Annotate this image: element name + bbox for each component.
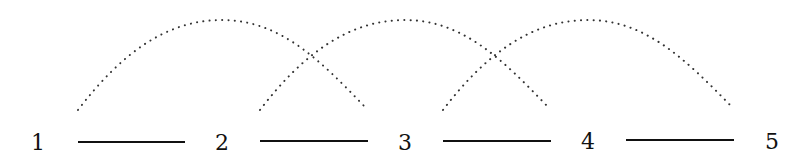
node-4-label: 4 <box>581 129 595 154</box>
line-graph-diagram: 1 2 3 4 5 <box>0 0 810 158</box>
node-2-label: 2 <box>215 130 229 155</box>
arc-edge34-edge45 <box>443 20 732 110</box>
node-3-label: 3 <box>398 130 412 155</box>
node-5-label: 5 <box>765 129 779 154</box>
arc-edge23-edge34 <box>260 20 548 110</box>
arc-edge12-edge23 <box>78 20 365 110</box>
node-1-label: 1 <box>31 130 45 155</box>
